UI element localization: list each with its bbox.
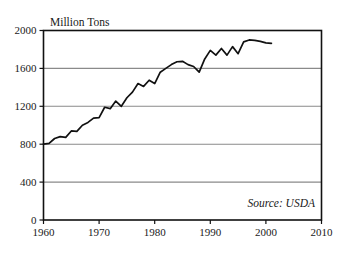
y-tick-label-0: 0: [31, 214, 37, 226]
x-tick-label-2010: 2010: [311, 226, 334, 238]
line-chart: 0400800120016002000 19601970198019902000…: [0, 0, 350, 256]
y-tick-label-400: 400: [20, 176, 37, 188]
y-tick-label-1200: 1200: [15, 100, 38, 112]
chart-background: [0, 0, 350, 256]
x-tick-label-1970: 1970: [88, 226, 111, 238]
y-tick-label-1600: 1600: [15, 62, 38, 74]
y-axis-title: Million Tons: [50, 16, 110, 28]
chart-page: 0400800120016002000 19601970198019902000…: [0, 0, 350, 256]
y-tick-label-2000: 2000: [15, 24, 38, 36]
x-tick-label-1960: 1960: [33, 226, 56, 238]
x-tick-label-1980: 1980: [144, 226, 167, 238]
x-tick-label-2000: 2000: [255, 226, 278, 238]
x-tick-label-1990: 1990: [199, 226, 222, 238]
y-tick-label-800: 800: [20, 138, 37, 150]
source-annotation: Source: USDA: [247, 197, 316, 209]
